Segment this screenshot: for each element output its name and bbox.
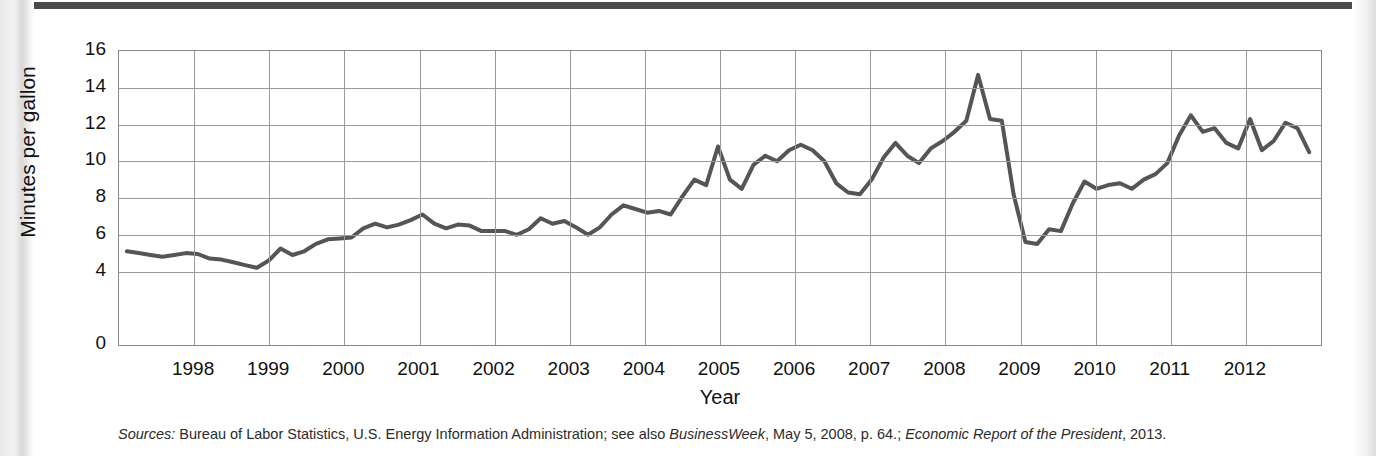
data-line-minutes-per-gallon [127,75,1309,268]
figure-container: Minutes per gallon 046810121416 19981999… [0,0,1376,456]
y-tick-label: 4 [66,259,106,281]
gridline-vertical [945,51,946,345]
y-tick-label: 10 [66,148,106,170]
gridline-vertical [495,51,496,345]
gridline-vertical [1096,51,1097,345]
y-tick-label: 14 [66,75,106,97]
plot-area [118,50,1322,346]
y-tick-label: 8 [66,185,106,207]
sources-label: Sources: [118,426,175,442]
y-tick-label: 0 [66,332,106,354]
gridline-vertical [344,51,345,345]
gridline-vertical [795,51,796,345]
gridline-vertical [1171,51,1172,345]
y-tick-label: 6 [66,222,106,244]
gridline-vertical [570,51,571,345]
sources-text-1: Bureau of Labor Statistics, U.S. Energy … [175,426,669,442]
gridline-vertical [1246,51,1247,345]
gridline-vertical [645,51,646,345]
gridline-vertical [720,51,721,345]
gridline-vertical [870,51,871,345]
gridline-vertical [269,51,270,345]
gridline-vertical [1021,51,1022,345]
sources-italic-businessweek: BusinessWeek [669,426,765,442]
y-axis-title: Minutes per gallon [16,2,40,302]
x-tick-label: 2012 [1200,358,1290,380]
gridline-vertical [194,51,195,345]
y-tick-label: 12 [66,112,106,134]
gridline-vertical [420,51,421,345]
y-tick-label: 16 [66,38,106,60]
x-axis-title: Year [118,386,1322,409]
sources-note: Sources: Bureau of Labor Statistics, U.S… [118,426,1348,442]
sources-text-3: , 2013. [1122,426,1166,442]
sources-text-2: , May 5, 2008, p. 64.; [765,426,905,442]
sources-italic-economic-report: Economic Report of the President [905,426,1122,442]
